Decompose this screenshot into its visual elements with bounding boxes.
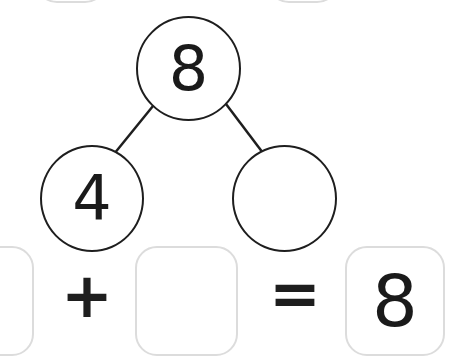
part-right-circle[interactable] [232,145,337,252]
equals-sign: = [270,266,320,322]
part-left-circle: 4 [40,145,144,252]
sum-box[interactable]: 8 [345,246,445,356]
connector-right-line [226,104,263,153]
part-left-value: 4 [72,168,111,230]
addend-1-box[interactable] [0,246,34,356]
addend-2-box[interactable] [135,246,238,356]
whole-circle: 8 [136,16,241,121]
connector-left-line [114,106,153,154]
equals-glyph: = [269,263,321,325]
plus-sign: + [60,268,114,324]
plus-glyph: + [61,265,113,327]
whole-value: 8 [169,38,208,100]
sum-value: 8 [372,265,418,337]
